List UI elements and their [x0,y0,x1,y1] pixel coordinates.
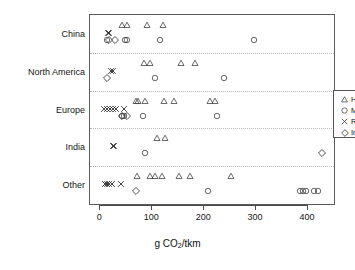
legend-label: Inland and coastal water [351,128,355,137]
data-point-heavy-road [228,173,235,180]
data-point-medium-heavy-road [251,36,258,43]
data-point-heavy-road [123,21,130,28]
x-axis-title: g CO2/tkm [0,238,355,249]
x-axis-tick [255,205,256,210]
data-point-medium-heavy-road [315,188,322,195]
data-point-heavy-road [176,173,183,180]
data-point-heavy-road [144,21,151,28]
legend-item-heavy-road: Heavy road [338,94,355,105]
category-separator [90,53,334,54]
legend-label: Heavy road [351,95,355,104]
x-axis-tick-label: 100 [144,212,159,222]
x-axis-tick-label: 400 [300,212,315,222]
legend-label: Medium−heavy road [351,106,355,115]
x-axis-tick-label: 300 [248,212,263,222]
plot-area [90,15,334,204]
y-axis-label-north-america: North America [28,67,85,77]
data-point-inland-and-coastal-water [103,74,111,82]
data-point-medium-heavy-road [214,112,221,119]
data-point-heavy-road [159,21,166,28]
data-point-heavy-road [154,135,161,142]
y-axis-label-europe: Europe [56,105,85,115]
y-axis-label-other: Other [62,180,85,190]
data-point-medium-heavy-road [302,188,309,195]
x-axis-tick [99,205,100,210]
data-point-inland-and-coastal-water [123,112,131,120]
data-point-heavy-road [186,173,193,180]
data-point-heavy-road [158,173,165,180]
y-axis-label-india: India [65,142,85,152]
data-point-heavy-road [147,59,154,66]
data-point-medium-heavy-road [151,74,158,81]
data-point-inland-and-coastal-water [111,36,119,44]
data-point-rail [108,181,115,188]
data-point-medium-heavy-road [221,74,228,81]
data-point-heavy-road [212,97,219,104]
diamond-icon [338,127,351,138]
legend-item-rail: Rail [338,116,355,127]
x-axis-tick [307,205,308,210]
data-point-heavy-road [134,97,141,104]
legend-item-medium-heavy-road: Medium−heavy road [338,105,355,116]
data-point-medium-heavy-road [139,112,146,119]
circle-icon [338,105,351,116]
category-separator [90,166,334,167]
x-axis-title-post: /tkm [182,238,201,249]
legend: Heavy road Medium−heavy road Rail Inland… [333,90,355,138]
data-point-heavy-road [162,135,169,142]
plot-panel: Heavy road Medium−heavy road Rail Inland… [89,14,335,205]
data-point-heavy-road [161,97,168,104]
data-point-heavy-road [133,173,140,180]
data-point-medium-heavy-road [156,36,163,43]
data-point-inland-and-coastal-water [318,149,326,157]
data-point-medium-heavy-road [141,150,148,157]
x-axis-tick [203,205,204,210]
x-axis-tick-label: 200 [196,212,211,222]
data-point-rail [111,143,118,150]
category-separator [90,91,334,92]
data-point-medium-heavy-road [123,36,130,43]
category-separator [90,128,334,129]
data-point-inland-and-coastal-water [132,187,140,195]
x-axis-tick [151,205,152,210]
legend-label: Rail [351,117,355,126]
y-axis-category-labels: ChinaNorth AmericaEuropeIndiaOther [0,14,85,205]
data-point-heavy-road [177,59,184,66]
x-axis-tick-label: 0 [97,212,102,222]
cross-icon [338,116,351,127]
triangle-icon [338,94,351,105]
y-axis-label-china: China [61,29,85,39]
x-axis: 0100200300400 [89,205,335,206]
chart-root: ChinaNorth AmericaEuropeIndiaOther Heavy… [0,0,355,270]
data-point-rail [118,181,125,188]
data-point-heavy-road [142,97,149,104]
data-point-heavy-road [191,59,198,66]
data-point-medium-heavy-road [205,188,212,195]
data-point-heavy-road [171,97,178,104]
legend-item-inland-and-coastal-water: Inland and coastal water [338,127,355,138]
x-axis-title-pre: g CO [154,238,177,249]
